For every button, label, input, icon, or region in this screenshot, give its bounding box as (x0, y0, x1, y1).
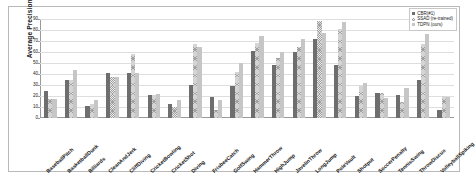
bar (197, 47, 201, 119)
bar (280, 52, 284, 118)
bar (301, 39, 305, 118)
bar-group (288, 19, 309, 118)
legend-label: TDPN (ours) (417, 23, 442, 28)
bar-group (413, 19, 434, 118)
bar-group (247, 19, 268, 118)
y-axis-title: Average Precision(%) (26, 0, 33, 79)
bar (218, 100, 222, 118)
legend-label: SSAD (re-trained) (417, 17, 453, 22)
bar-group (392, 19, 413, 118)
bar (94, 100, 98, 118)
x-axis-tick-label: Billiards (87, 156, 106, 174)
bar-group (123, 19, 144, 118)
bar (404, 88, 408, 118)
bar-groups (40, 19, 454, 118)
bar-group (433, 19, 454, 118)
legend-item: TDPN (ours) (412, 22, 453, 28)
bar (115, 77, 119, 118)
bar-group (144, 19, 165, 118)
x-axis-tick-label: Shotput (356, 157, 374, 174)
legend-swatch-cbr (412, 12, 415, 15)
bar (177, 100, 181, 118)
x-axis-tick-label: CliffDiving (129, 152, 152, 174)
bar (239, 63, 243, 118)
bar-group (81, 19, 102, 118)
bar (425, 34, 429, 118)
bar-group (40, 19, 61, 118)
bar-group (268, 19, 289, 118)
bar (259, 36, 263, 119)
bar-group (61, 19, 82, 118)
bar-group (351, 19, 372, 118)
bar (322, 33, 326, 118)
bar-group (309, 19, 330, 118)
plot-area: 9080706050403020100 (40, 19, 454, 118)
bar (342, 22, 346, 118)
bar (446, 97, 450, 118)
bar (384, 98, 388, 118)
chart-legend: CBR(#1)SSAD (re-trained)TDPN (ours) (409, 8, 457, 31)
x-axis-labels: BaseballPitchBasketballDunkBilliardsClea… (40, 118, 454, 174)
x-axis-tick-label: PoleVault (336, 154, 357, 174)
legend-swatch-ssad (412, 18, 415, 21)
bar-group (371, 19, 392, 118)
bar-group (330, 19, 351, 118)
bar-group (206, 19, 227, 118)
bar (73, 70, 77, 118)
bar (135, 73, 139, 118)
legend-swatch-tdpn (412, 23, 415, 26)
bar-group (226, 19, 247, 118)
x-axis-tick-label: HighJump (273, 153, 296, 174)
bar-group (164, 19, 185, 118)
x-axis-tick-label: Diving (191, 159, 207, 174)
bar (52, 99, 56, 118)
bar (156, 94, 160, 118)
bar-group (102, 19, 123, 118)
bar-group (185, 19, 206, 118)
bar (363, 83, 367, 118)
